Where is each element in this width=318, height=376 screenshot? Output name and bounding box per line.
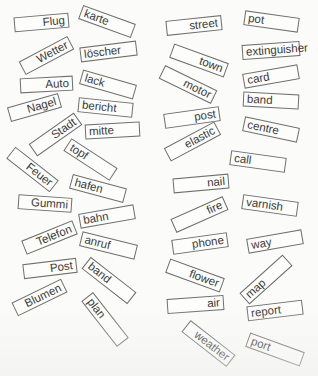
english-word-card[interactable]: nail bbox=[172, 173, 229, 193]
english-word-label: map bbox=[244, 276, 268, 300]
english-word-label: pot bbox=[247, 12, 264, 26]
english-word-card[interactable]: fire bbox=[170, 196, 228, 233]
english-word-card[interactable]: way bbox=[246, 229, 304, 253]
german-word-label: karte bbox=[82, 7, 110, 27]
english-word-card[interactable]: street bbox=[165, 15, 222, 36]
german-word-label: hafen bbox=[73, 176, 104, 195]
english-word-card[interactable]: phone bbox=[171, 232, 229, 255]
german-word-label: Telefon bbox=[34, 223, 73, 248]
english-word-label: centre bbox=[246, 118, 280, 136]
english-word-label: weather bbox=[192, 328, 231, 362]
english-word-label: extinguisher bbox=[246, 42, 309, 58]
english-word-label: band bbox=[247, 93, 273, 106]
german-word-label: bahn bbox=[82, 210, 109, 226]
english-word-card[interactable]: report bbox=[246, 299, 303, 321]
english-word-label: fire bbox=[204, 199, 223, 216]
german-word-card[interactable]: anruf bbox=[79, 231, 138, 259]
german-word-column: FlugkarteWetterlöscherAutolackNagelberic… bbox=[0, 0, 160, 376]
german-word-label: bericht bbox=[81, 99, 117, 114]
english-word-label: varnish bbox=[245, 196, 283, 213]
german-word-label: Flug bbox=[42, 14, 65, 27]
german-word-card[interactable]: topf bbox=[63, 138, 117, 181]
german-word-card[interactable]: mitte bbox=[84, 121, 140, 139]
german-word-label: Nagel bbox=[25, 95, 57, 114]
english-word-label: elastic bbox=[182, 124, 216, 149]
english-word-card[interactable]: weather bbox=[181, 320, 235, 367]
german-word-card[interactable]: bahn bbox=[78, 204, 136, 228]
german-word-label: Gummi bbox=[31, 196, 69, 210]
english-word-label: port bbox=[250, 335, 273, 353]
english-word-card[interactable]: call bbox=[229, 150, 287, 173]
english-word-label: call bbox=[233, 152, 252, 166]
english-word-card[interactable]: air bbox=[166, 295, 224, 314]
german-word-card[interactable]: Gummi bbox=[18, 194, 73, 213]
german-word-label: Auto bbox=[45, 77, 69, 90]
english-word-card[interactable]: varnish bbox=[241, 194, 299, 217]
english-word-card[interactable]: band bbox=[243, 91, 300, 109]
german-word-card[interactable]: Flug bbox=[13, 12, 69, 32]
german-word-label: lack bbox=[83, 72, 106, 89]
german-word-label: Stadt bbox=[49, 116, 78, 141]
english-word-card[interactable]: extinguisher bbox=[242, 40, 301, 59]
english-word-label: street bbox=[189, 17, 219, 31]
german-word-label: löscher bbox=[83, 44, 121, 60]
german-word-label: Blumen bbox=[23, 282, 63, 309]
english-word-label: card bbox=[246, 71, 270, 86]
english-word-column: streetpottownextinguishermotorcardbandpo… bbox=[160, 0, 318, 376]
german-word-card[interactable]: hafen bbox=[69, 174, 127, 203]
german-word-card[interactable]: karte bbox=[78, 4, 136, 37]
english-word-label: post bbox=[193, 108, 216, 122]
german-word-card[interactable]: bericht bbox=[77, 97, 133, 118]
german-word-label: mitte bbox=[88, 124, 113, 137]
english-word-label: air bbox=[206, 297, 220, 309]
english-word-label: phone bbox=[191, 234, 224, 250]
english-word-label: way bbox=[250, 236, 272, 251]
matching-worksheet: FlugkarteWetterlöscherAutolackNagelberic… bbox=[0, 0, 318, 376]
german-word-label: anruf bbox=[83, 233, 111, 251]
german-word-card[interactable]: Blumen bbox=[11, 278, 67, 316]
german-word-card[interactable]: Nagel bbox=[6, 92, 61, 121]
english-word-card[interactable]: card bbox=[242, 64, 300, 88]
german-word-label: Post bbox=[49, 259, 73, 273]
german-word-card[interactable]: Post bbox=[22, 257, 77, 278]
german-word-card[interactable]: lack bbox=[79, 69, 137, 99]
english-word-label: motor bbox=[182, 77, 213, 100]
german-word-label: plan bbox=[85, 296, 107, 320]
german-word-card[interactable]: Auto bbox=[19, 75, 73, 93]
english-word-label: flower bbox=[188, 268, 221, 289]
german-word-label: band bbox=[86, 260, 113, 285]
english-word-card[interactable]: map bbox=[239, 254, 292, 304]
english-word-label: town bbox=[198, 55, 225, 74]
german-word-label: Wetter bbox=[34, 39, 69, 65]
english-word-card[interactable]: pot bbox=[243, 10, 300, 33]
english-word-card[interactable]: centre bbox=[242, 116, 300, 142]
english-word-label: nail bbox=[207, 175, 226, 188]
german-word-card[interactable]: Wetter bbox=[18, 35, 74, 74]
english-word-card[interactable]: port bbox=[245, 332, 305, 366]
english-word-card[interactable]: flower bbox=[165, 258, 225, 292]
german-word-label: Feuer bbox=[23, 160, 54, 188]
german-word-label: topf bbox=[67, 141, 89, 161]
english-word-label: report bbox=[250, 304, 281, 319]
german-word-card[interactable]: löscher bbox=[79, 40, 137, 62]
german-word-card[interactable]: Feuer bbox=[6, 146, 59, 192]
german-word-card[interactable]: Telefon bbox=[21, 220, 78, 255]
